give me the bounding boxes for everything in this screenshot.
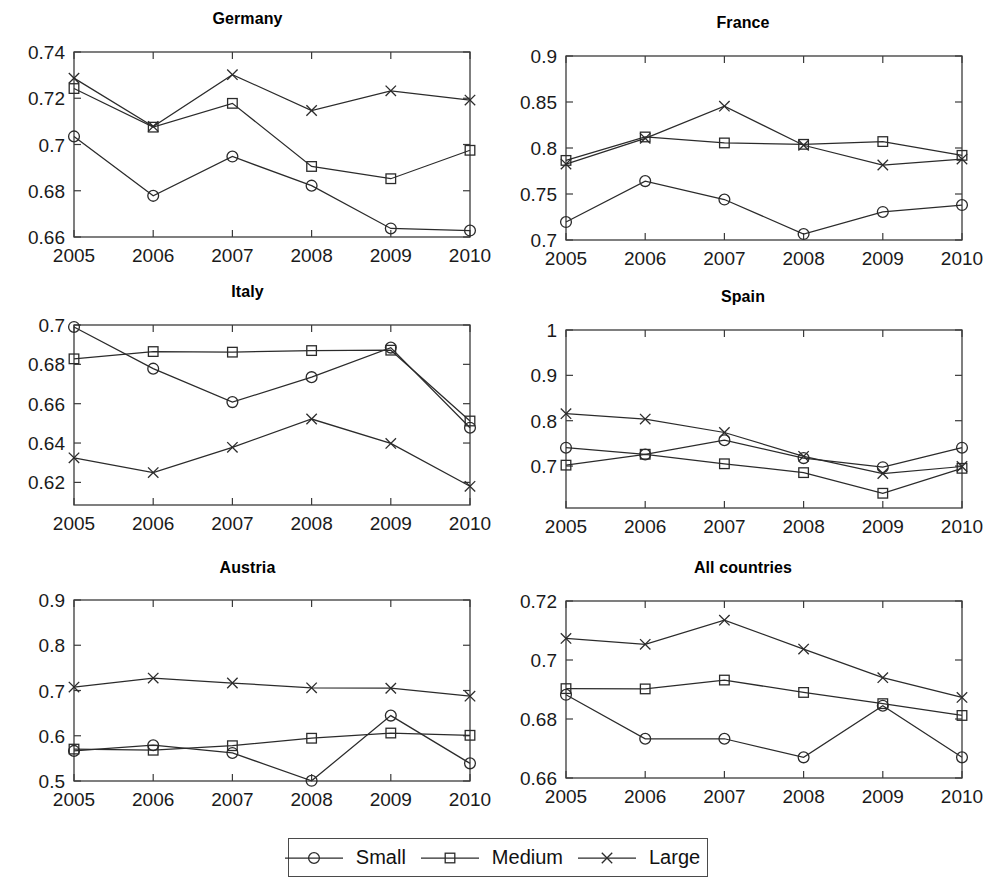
circle-marker [385,342,396,353]
y-tick-label: 0.72 [28,88,65,109]
square-marker [465,145,475,155]
chart-panel: Spain0.70.80.91200520062007200820092010 [0,0,991,893]
cross-marker [640,639,650,649]
cross-marker [561,408,571,418]
series-line-medium [566,137,962,160]
square-marker [561,460,571,470]
x-tick-label: 2006 [132,245,174,266]
x-tick-label: 2007 [703,248,745,269]
circle-marker [877,700,888,711]
circle-marker [877,462,888,473]
square-marker [307,733,317,743]
chart-panel: Italy0.620.640.660.680.72005200620072008… [0,0,991,893]
circle-marker [957,442,968,453]
x-tick-label: 2009 [370,513,412,534]
series-line-small [566,181,962,234]
x-tick-label: 2010 [449,245,491,266]
series-line-medium [74,89,470,179]
x-tick-label: 2005 [53,513,95,534]
y-tick-label: 0.75 [520,184,557,205]
circle-marker [798,453,809,464]
x-tick-label: 2005 [545,248,587,269]
x-tick-label: 2010 [449,513,491,534]
cross-marker [640,133,650,143]
cross-marker [148,121,158,131]
x-tick-label: 2005 [53,789,95,810]
cross-marker [227,442,237,452]
square-marker [799,140,809,150]
series-line-large [566,414,962,474]
square-marker [386,174,396,184]
cross-marker [798,451,808,461]
x-tick-label: 2010 [449,789,491,810]
legend-sample-cross-marker [576,847,638,869]
square-marker [148,347,158,357]
square-marker [228,741,238,751]
circle-marker [306,372,317,383]
circle-marker [306,180,317,191]
square-marker [148,122,158,132]
cross-marker [386,683,396,693]
square-marker [957,464,967,474]
square-marker [386,728,396,738]
x-tick-label: 2007 [211,245,253,266]
circle-marker [227,748,238,759]
y-tick-label: 0.66 [520,768,557,789]
circle-marker [561,689,572,700]
cross-marker [69,453,79,463]
chart-panel: All countries0.660.680.70.72200520062007… [0,0,991,893]
panel-title: All countries [495,559,991,577]
y-tick-label: 0.7 [531,650,557,671]
cross-marker [148,467,158,477]
x-tick-label: 2009 [862,248,904,269]
y-tick-label: 0.7 [531,230,557,251]
legend-entry: Large [576,846,713,869]
cross-marker [148,673,158,683]
y-tick-label: 0.9 [39,590,65,611]
circle-marker [69,131,80,142]
cross-marker [386,438,396,448]
square-marker [878,699,888,709]
cross-marker [227,678,237,688]
square-marker [386,345,396,355]
x-tick-label: 2007 [703,516,745,537]
square-marker [69,84,79,94]
cross-marker [69,682,79,692]
y-tick-label: 0.8 [39,635,65,656]
series-line-medium [74,350,470,421]
square-marker [957,711,967,721]
x-tick-label: 2006 [624,248,666,269]
circle-marker [877,207,888,218]
plot-area: 0.70.80.91200520062007200820092010 [0,0,991,893]
figure-panel-grid: Germany0.660.680.70.720.7420052006200720… [0,0,991,893]
square-marker [465,730,475,740]
circle-marker [640,176,651,187]
legend-label: Large [638,846,713,869]
circle-marker [69,746,80,757]
y-tick-label: 0.68 [28,181,65,202]
circle-marker [227,397,238,408]
x-tick-label: 2008 [782,786,824,807]
axis-box [74,325,470,505]
square-marker [878,488,888,498]
y-tick-label: 0.9 [531,46,557,67]
square-marker [720,459,730,469]
axis-box [566,330,962,508]
y-tick-label: 0.64 [28,433,65,454]
x-tick-label: 2008 [782,248,824,269]
x-tick-label: 2006 [132,513,174,534]
cross-marker [719,101,729,111]
x-tick-label: 2005 [53,245,95,266]
series-line-medium [566,680,962,715]
square-marker [307,162,317,172]
series-line-large [74,419,470,486]
chart-panel: France0.70.750.80.850.920052006200720082… [0,0,991,893]
circle-marker [465,758,476,769]
cross-marker [386,86,396,96]
square-marker [640,132,650,142]
x-tick-label: 2010 [941,786,983,807]
legend-sample-circle-marker [283,847,345,869]
y-tick-label: 0.74 [28,42,65,63]
cross-marker [719,427,729,437]
series-line-small [74,327,470,428]
